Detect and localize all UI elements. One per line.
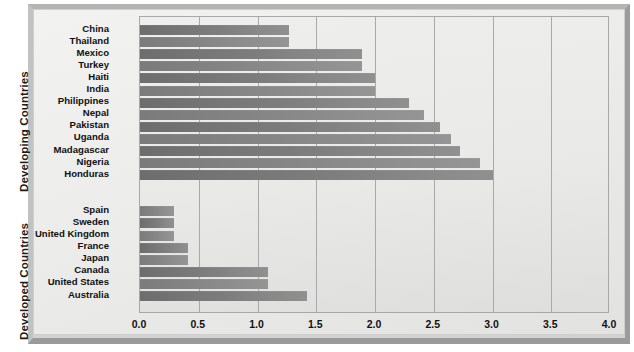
bar [140, 49, 362, 59]
bar [140, 98, 409, 108]
bar-row [140, 291, 609, 301]
bar [140, 231, 174, 241]
bar [140, 37, 289, 47]
category-label: Australia [68, 290, 109, 300]
plot-wrapper: ChinaThailandMexicoTurkeyHaitiIndiaPhili… [139, 16, 609, 313]
x-tick-label: 0.5 [190, 318, 205, 330]
category-label: India [87, 84, 109, 94]
bar-row [140, 37, 609, 47]
x-tick-label: 3.0 [484, 318, 499, 330]
bar-row [140, 110, 609, 120]
bar-row [140, 49, 609, 59]
bar-row [140, 218, 609, 228]
x-tick-label: 0.0 [132, 318, 147, 330]
bar [140, 291, 307, 301]
category-label: Haiti [88, 72, 109, 82]
bar-rows [140, 17, 608, 312]
bar-row [140, 243, 609, 253]
category-label: Nigeria [76, 157, 109, 167]
bar-row [140, 255, 609, 265]
bar [140, 134, 451, 144]
category-label: Spain [83, 205, 109, 215]
bar-row [140, 98, 609, 108]
x-tick-label: 1.0 [249, 318, 264, 330]
bar-row [140, 134, 609, 144]
category-label: Philippines [58, 96, 109, 106]
bar-row [140, 146, 609, 156]
category-label: Mexico [76, 48, 109, 58]
bar [140, 279, 268, 289]
category-label: France [78, 241, 109, 251]
category-label: United Kingdom [35, 229, 109, 239]
category-label: Canada [74, 265, 109, 275]
bar [140, 170, 493, 180]
category-label: Madagascar [54, 145, 109, 155]
category-label: China [82, 24, 109, 34]
bar-row [140, 231, 609, 241]
bar-row [140, 170, 609, 180]
x-tick-label: 2.0 [367, 318, 382, 330]
category-label: Turkey [78, 60, 109, 70]
category-label: United States [48, 277, 109, 287]
category-label: Thailand [70, 36, 109, 46]
x-tick-label: 1.5 [308, 318, 323, 330]
category-label: Japan [81, 253, 109, 263]
category-label: Sweden [73, 217, 109, 227]
bar [140, 218, 174, 228]
x-tick-label: 3.5 [543, 318, 558, 330]
x-tick-label: 2.5 [425, 318, 440, 330]
bar [140, 243, 188, 253]
bar-row [140, 158, 609, 168]
group-axis-title-developed: Developed Countries [18, 223, 30, 340]
category-label: Pakistan [70, 120, 109, 130]
bar [140, 206, 174, 216]
bar [140, 255, 188, 265]
bar-row [140, 206, 609, 216]
bar [140, 122, 440, 132]
chart-figure: Developing Countries Developed Countries… [0, 0, 634, 352]
bar [140, 86, 375, 96]
bar-row [140, 73, 609, 83]
bar-row [140, 25, 609, 35]
bar [140, 61, 362, 71]
plot-area [139, 16, 609, 313]
bar-row [140, 122, 609, 132]
bar [140, 158, 480, 168]
group-axis-title-developing: Developing Countries [18, 71, 30, 192]
bar [140, 110, 424, 120]
bar [140, 73, 375, 83]
x-tick-label: 4.0 [602, 318, 617, 330]
category-label: Nepal [83, 108, 109, 118]
category-label: Uganda [74, 132, 109, 142]
bar-row [140, 279, 609, 289]
category-label: Honduras [64, 169, 109, 179]
bar [140, 146, 460, 156]
bar [140, 267, 268, 277]
bar-row [140, 61, 609, 71]
bar-row [140, 267, 609, 277]
bar [140, 25, 289, 35]
bar-row [140, 86, 609, 96]
x-axis-tick-labels: 0.00.51.01.52.02.53.03.54.0 [139, 318, 609, 334]
